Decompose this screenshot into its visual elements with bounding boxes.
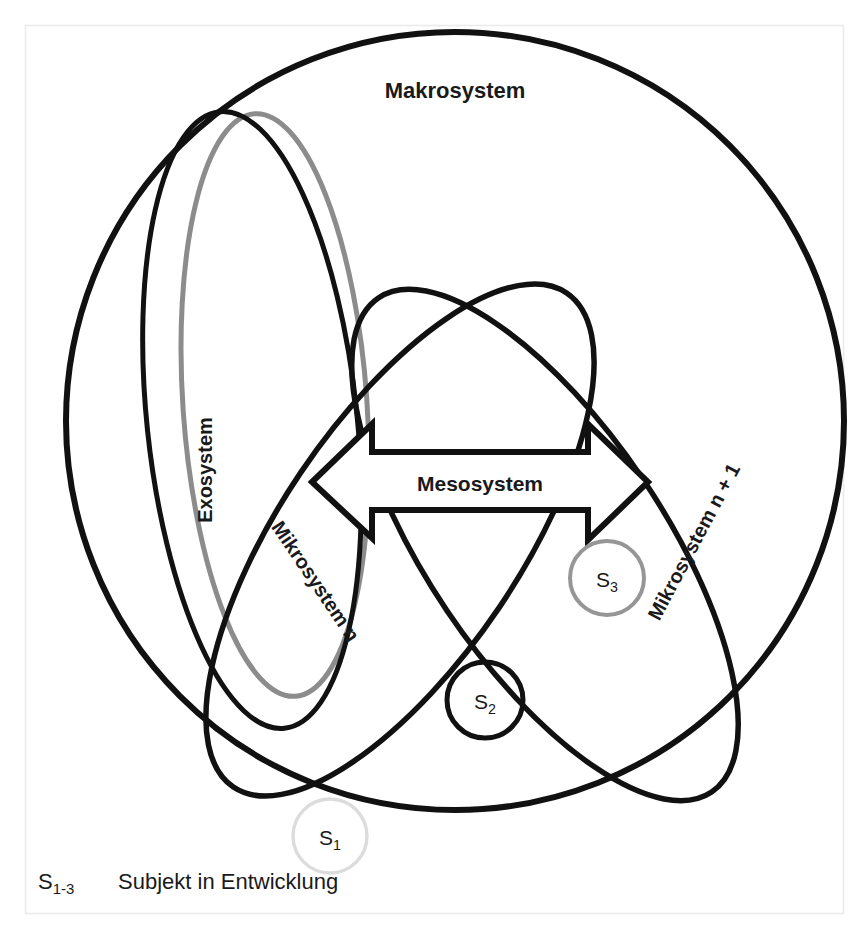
subject-label-s3-base: S xyxy=(596,568,610,591)
legend-description-text: Subjekt in Entwicklung xyxy=(118,869,338,894)
legend-key-base: S xyxy=(38,869,53,894)
diagram-canvas: Makrosystem Mesosystem Exosystem Mikrosy… xyxy=(0,0,868,937)
mesosystem-label-text: Mesosystem xyxy=(417,472,543,495)
subject-label-s3-index: 3 xyxy=(610,579,618,595)
exosystem-label: Exosystem xyxy=(194,417,216,523)
subject-label-s1-index: 1 xyxy=(333,837,341,853)
subject-label-s2-base: S xyxy=(474,690,488,713)
ecological-systems-diagram: Makrosystem Mesosystem Exosystem Mikrosy… xyxy=(0,0,868,937)
legend-description: Subjekt in Entwicklung xyxy=(118,869,338,894)
subject-label-s2-index: 2 xyxy=(488,701,496,717)
macrosystem-label-text: Makrosystem xyxy=(385,78,526,103)
exosystem-label-text: Exosystem xyxy=(194,417,216,523)
mesosystem-label: Mesosystem xyxy=(417,472,543,495)
macrosystem-label: Makrosystem xyxy=(385,78,526,103)
legend-key-index: 1-3 xyxy=(53,880,75,897)
subject-label-s1-base: S xyxy=(319,826,333,849)
